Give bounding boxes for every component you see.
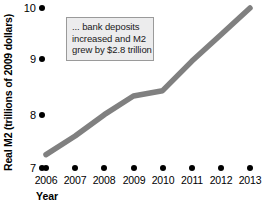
x-tick-dot-2013: [247, 165, 253, 171]
annotation-line-1: ... bank deposits: [72, 21, 149, 33]
x-tick-dot-2012: [218, 165, 224, 171]
x-tick-label-2008: 2008: [87, 175, 121, 186]
annotation-callout: ... bank deposits increased and M2 grew …: [66, 17, 154, 61]
annotation-line-3: grew by $2.8 trillion: [72, 44, 149, 56]
x-tick-dot-2011: [189, 165, 195, 171]
x-tick-dot-2008: [101, 165, 107, 171]
annotation-line-2: increased and M2: [72, 33, 149, 45]
x-tick-dot-2007: [72, 165, 78, 171]
x-tick-dot-2006: [43, 165, 49, 171]
chart-container: Real M2 (trillions of 2009 dollars) 10 9…: [0, 0, 265, 208]
x-tick-dot-2010: [160, 165, 166, 171]
x-tick-dot-2009: [131, 165, 137, 171]
x-tick-label-2013: 2013: [233, 175, 265, 186]
x-axis-title: Year: [36, 190, 58, 202]
